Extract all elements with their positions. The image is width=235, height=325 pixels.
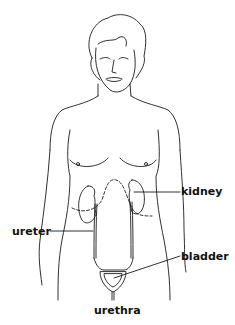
kidney-right bbox=[129, 180, 145, 214]
label-ureter: ureter bbox=[12, 226, 51, 238]
body-right bbox=[156, 130, 170, 300]
eye-right bbox=[119, 58, 128, 60]
nose bbox=[112, 60, 116, 73]
mouth bbox=[106, 78, 122, 82]
bladder-leader bbox=[114, 256, 180, 278]
arm-left bbox=[39, 150, 50, 285]
label-bladder: bladder bbox=[181, 251, 229, 263]
urethra-tube bbox=[112, 292, 114, 300]
nipple-left bbox=[77, 163, 80, 166]
nipple-right bbox=[145, 163, 148, 166]
hair-curls bbox=[98, 37, 127, 46]
body-left bbox=[58, 130, 70, 300]
label-urethra: urethra bbox=[94, 305, 141, 317]
urinary-system-illustration bbox=[0, 0, 235, 325]
face bbox=[96, 48, 136, 92]
shoulders bbox=[50, 96, 180, 150]
dashed-outline bbox=[72, 180, 152, 216]
neck bbox=[98, 84, 131, 96]
bladder-outer bbox=[94, 258, 133, 270]
kidney-left bbox=[79, 186, 96, 223]
eye-left bbox=[100, 58, 110, 60]
breasts bbox=[70, 158, 156, 167]
label-kidney: kidney bbox=[181, 186, 222, 198]
